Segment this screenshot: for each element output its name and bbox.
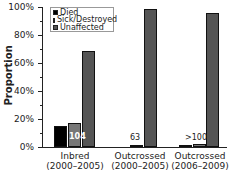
y-axis-label: Proportion	[3, 46, 14, 106]
swatch-icon	[53, 18, 55, 23]
y-tick: 100%	[0, 2, 34, 12]
annotation-n: 63	[130, 133, 140, 142]
y-tick: 60%	[0, 58, 34, 68]
y-tick: 20%	[0, 114, 34, 124]
y-axis	[42, 7, 43, 148]
legend-item: Unaffected	[53, 24, 111, 32]
x-category: Outcrossed(2006–2009)	[165, 151, 229, 171]
bar-died-out2	[179, 145, 192, 147]
legend: Died Sick/Destroyed Unaffected	[50, 7, 114, 32]
y-tick: 0%	[0, 142, 34, 152]
bar-unaffected-out1	[144, 9, 157, 147]
bar-unaffected-out2	[206, 13, 219, 147]
annotation-n: >100	[185, 133, 207, 142]
bar-sick-out1	[130, 145, 143, 147]
annotation-n: 104	[69, 132, 86, 141]
x-category: Inbred(2000–2005)	[40, 151, 110, 171]
swatch-icon	[53, 25, 58, 30]
bar-died-inbred	[54, 126, 67, 147]
bar-sick-out2	[193, 144, 206, 147]
y-tick: 40%	[0, 86, 34, 96]
y-tick: 80%	[0, 30, 34, 40]
x-axis	[42, 147, 227, 148]
